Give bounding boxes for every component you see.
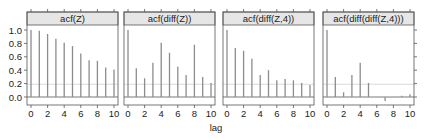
x-tick-label: 2: [45, 108, 50, 119]
x-tick-label: 2: [241, 108, 246, 119]
x-tick-label: 8: [291, 108, 296, 119]
x-tick-label: 0: [125, 108, 130, 119]
x-tick-label: 4: [159, 108, 164, 119]
x-tick-label: 2: [341, 108, 346, 119]
x-tick-label: 10: [206, 108, 217, 119]
panel-4: acf(diff(diff(Z,4)))0246810: [323, 9, 415, 119]
y-tick-label: 0.6: [9, 51, 22, 62]
x-tick-label: 4: [358, 108, 363, 119]
y-tick-label: 0.2: [9, 78, 22, 89]
x-tick-label: 4: [62, 108, 67, 119]
panel-title: acf(diff(diff(Z,4))): [333, 13, 403, 24]
y-tick-label: 0.0: [9, 92, 22, 103]
panel-1: acf(Z)0246810: [27, 9, 119, 119]
x-tick-label: 4: [258, 108, 263, 119]
y-tick-label: 1.0: [9, 25, 22, 36]
x-tick-label: 8: [391, 108, 396, 119]
x-tick-label: 6: [274, 108, 279, 119]
y-axis: 0.00.20.40.60.81.0: [9, 25, 417, 103]
x-tick-label: 10: [405, 108, 416, 119]
x-tick-label: 10: [305, 108, 316, 119]
x-tick-label: 10: [109, 108, 120, 119]
y-tick-label: 0.4: [9, 65, 22, 76]
x-tick-label: 6: [78, 108, 83, 119]
panel-2: acf(diff(Z))0246810: [124, 9, 216, 119]
x-tick-label: 0: [324, 108, 329, 119]
x-tick-label: 6: [374, 108, 379, 119]
panel-title: acf(diff(Z,4)): [243, 13, 295, 24]
acf-trellis-chart: acf(Z)0246810acf(diff(Z))0246810acf(diff…: [0, 0, 426, 140]
x-tick-label: 8: [95, 108, 100, 119]
x-tick-label: 0: [28, 108, 33, 119]
panel-title: acf(diff(Z)): [148, 13, 192, 24]
x-tick-label: 2: [142, 108, 147, 119]
x-tick-label: 8: [192, 108, 197, 119]
x-tick-label: 0: [224, 108, 229, 119]
x-tick-label: 6: [175, 108, 180, 119]
y-tick-label: 0.8: [9, 38, 22, 49]
panel-title: acf(Z): [60, 13, 85, 24]
panel-3: acf(diff(Z,4))0246810: [223, 9, 315, 119]
x-axis-label: lag: [210, 122, 223, 133]
